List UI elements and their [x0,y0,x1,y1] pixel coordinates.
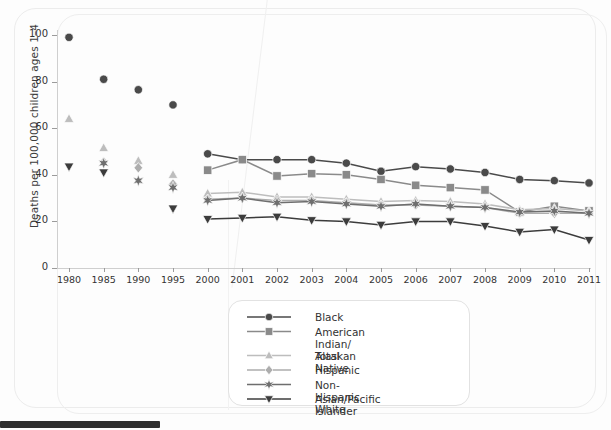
data-point [376,221,386,230]
legend-item-label: Total [315,350,340,362]
legend-sample-marker [265,313,273,321]
legend-sample-marker [265,328,273,336]
data-point [99,143,109,152]
data-point [515,228,525,237]
legend-item-label: Black [315,311,343,323]
data-point [273,172,281,180]
data-point [203,216,213,225]
series-total [64,114,594,215]
data-point [446,165,454,173]
data-point [342,171,350,179]
data-point [133,175,144,187]
data-point [99,75,107,83]
data-point [307,155,315,163]
series-american-indian-alaskan-native [203,155,593,216]
data-point [65,33,73,41]
data-point [203,150,211,158]
series-line [208,217,589,240]
legend-sample-marker [265,365,273,375]
legend-item-label: Asian/Pacific Islander [315,393,381,417]
series-asian-pacific-islander [64,163,594,245]
data-point [64,163,74,172]
data-point [515,175,523,183]
data-point [134,86,142,94]
data-point [168,170,178,179]
data-point [481,168,489,176]
data-point [550,176,558,184]
page-canvas: Deaths per 100,000 children ages 1–4 020… [0,0,611,430]
series-line [208,160,589,212]
series-black [65,33,593,187]
data-point [203,166,211,174]
data-point [342,159,350,167]
chart-legend: BlackAmerican Indian/ Alaskan NativeTota… [228,300,470,406]
data-point [411,162,419,170]
data-point [585,179,593,187]
data-point [307,169,315,177]
data-point [481,186,489,194]
data-point [64,114,74,123]
data-point [273,155,281,163]
data-point [411,181,419,189]
legend-item-label: Hispanic [315,364,360,376]
data-point [99,169,109,178]
data-point [584,236,594,245]
data-point [169,101,177,109]
data-point [238,155,246,163]
data-point [377,175,385,183]
data-point [377,167,385,175]
data-point [168,205,178,214]
data-point [446,183,454,191]
scan-artifact-bottom-bar [0,421,160,428]
series-line [208,154,589,183]
